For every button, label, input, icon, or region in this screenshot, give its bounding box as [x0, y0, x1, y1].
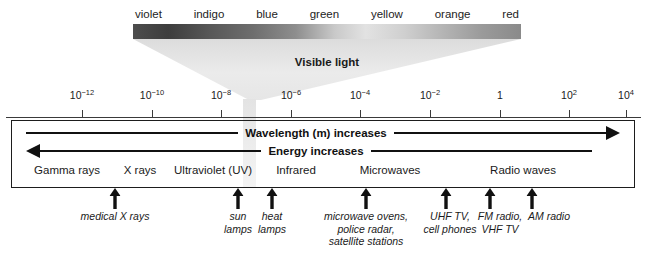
band-name-x-rays: X rays: [124, 164, 157, 176]
axis-tick-0: [82, 110, 83, 117]
axis-tick-label-7: 102: [561, 89, 577, 101]
wavelength-increases-arrow: Wavelength (m) increases: [26, 126, 620, 140]
callout-arrow-up-icon-2: [267, 188, 278, 209]
visible-light-color-labels: violetindigobluegreenyelloworangered: [133, 5, 521, 23]
color-label-yellow: yellow: [371, 7, 403, 21]
band-name-microwaves: Microwaves: [360, 164, 421, 176]
axis-tick-label-0: 10−12: [70, 89, 94, 101]
axis-tick-7: [569, 110, 570, 117]
callout-caption-1: sun lamps: [224, 210, 252, 235]
callout-arrow-up-icon-5: [485, 188, 496, 209]
wavelength-arrow-line-left: [26, 132, 238, 134]
visible-spectrum-bar: [133, 24, 521, 39]
callout-caption-2: heat lamps: [258, 210, 286, 235]
axis-tick-2: [221, 110, 222, 117]
color-label-blue: blue: [256, 7, 278, 21]
callout-arrow-up-icon-4: [441, 188, 452, 209]
energy-arrow-label: Energy increases: [261, 145, 370, 157]
color-label-indigo: indigo: [194, 7, 225, 21]
band-name-ultraviolet-uv: Ultraviolet (UV): [174, 164, 252, 176]
energy-arrow-line-right: [371, 150, 592, 152]
callout-caption-0: medical X rays: [81, 210, 150, 223]
wavelength-arrow-label: Wavelength (m) increases: [238, 127, 393, 139]
callout-arrow-up-icon-3: [361, 188, 372, 209]
band-name-radio-waves: Radio waves: [490, 164, 556, 176]
callout-arrow-up-icon-1: [233, 188, 244, 209]
axis-tick-label-1: 10−10: [140, 89, 164, 101]
visible-light-label: Visible light: [133, 56, 521, 68]
axis-tick-label-3: 10−6: [281, 89, 301, 101]
band-name-infrared: Infrared: [276, 164, 316, 176]
wavelength-arrow-line-right: [394, 132, 606, 134]
arrow-right-icon: [606, 126, 620, 140]
color-label-green: green: [310, 7, 339, 21]
axis-tick-label-5: 10−2: [420, 89, 440, 101]
axis-tick-8: [626, 110, 627, 117]
callout-caption-3: microwave ovens, police radar, satellite…: [324, 210, 408, 248]
axis-tick-label-8: 104: [618, 89, 634, 101]
axis-tick-6: [500, 110, 501, 117]
energy-increases-arrow: Energy increases: [26, 144, 592, 158]
color-label-orange: orange: [435, 7, 471, 21]
arrow-left-icon: [26, 144, 40, 158]
wavelength-axis-labels: 10−1210−1010−810−610−410−21102104: [0, 89, 647, 105]
callout-caption-4: UHF TV, cell phones: [423, 210, 476, 235]
axis-tick-3: [291, 110, 292, 117]
axis-tick-label-6: 1: [497, 89, 503, 101]
axis-tick-1: [152, 110, 153, 117]
electromagnetic-spectrum-figure: violetindigobluegreenyelloworangered Vis…: [0, 0, 647, 260]
color-label-red: red: [502, 7, 519, 21]
color-label-violet: violet: [135, 7, 162, 21]
callout-arrow-up-icon-6: [527, 188, 538, 209]
axis-tick-5: [430, 110, 431, 117]
axis-tick-label-2: 10−8: [211, 89, 231, 101]
callout-arrows: [0, 188, 647, 210]
wavelength-axis-ticks: [0, 110, 647, 118]
callout-captions: medical X rayssun lampsheat lampsmicrowa…: [0, 210, 647, 260]
callout-caption-5: FM radio, VHF TV: [478, 210, 522, 235]
axis-tick-label-4: 10−4: [350, 89, 370, 101]
callout-caption-6: AM radio: [528, 210, 570, 223]
callout-arrow-up-icon-0: [110, 188, 121, 209]
axis-tick-4: [360, 110, 361, 117]
band-name-gamma-rays: Gamma rays: [34, 164, 100, 176]
spectrum-band-names: Gamma raysX raysUltraviolet (UV)Infrared…: [0, 164, 647, 180]
energy-arrow-line-left: [40, 150, 261, 152]
